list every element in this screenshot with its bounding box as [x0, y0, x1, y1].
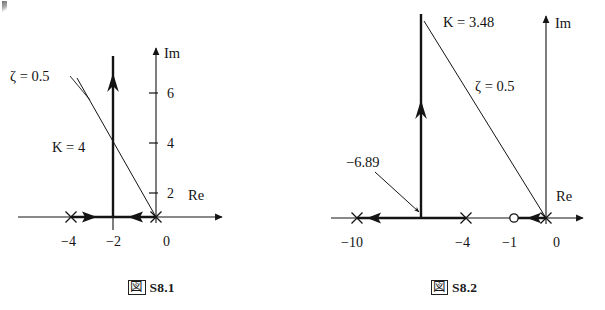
x-tick-label-0: 0 [163, 234, 170, 249]
figure-s8-1: Re Im 6 4 2 −4 −2 0 ζ = 0.5 K = 4 図S8.1 [0, 0, 303, 310]
zero-marker-o [510, 214, 518, 222]
real-axis-locus-segment-left-s8-2 [357, 213, 466, 224]
x-tick-label-minus4: −4 [61, 234, 76, 249]
axis-label-re: Re [188, 187, 204, 203]
x-tick-label-minus1: −1 [502, 235, 517, 250]
y-tick-label-4: 4 [167, 136, 174, 151]
axis-label-im: Im [555, 15, 572, 31]
figure-caption-s8-2: 図S8.2 [303, 280, 605, 296]
x-tick-label-minus10: −10 [341, 235, 363, 250]
damping-ratio-label: ζ = 0.5 [475, 78, 515, 94]
zeta-leader-line-s8-1 [70, 76, 90, 100]
x-tick-label-minus2: −2 [106, 234, 121, 249]
breakaway-point-label: −6.89 [346, 154, 380, 170]
gain-label-k: K = 3.48 [443, 14, 494, 30]
damping-ratio-line-s8-2 [424, 21, 546, 218]
breakaway-leader-arrow-s8-2 [375, 172, 419, 212]
axis-label-im: Im [164, 45, 181, 61]
figure-kanji-mark: 図 [431, 280, 448, 295]
figure-caption-s8-1: 図S8.1 [0, 280, 303, 296]
x-tick-label-0: 0 [553, 235, 560, 250]
figure-caption-label: S8.1 [150, 280, 175, 295]
figure-page: Re Im 6 4 2 −4 −2 0 ζ = 0.5 K = 4 図S8.1 [0, 0, 605, 310]
y-tick-label-2: 2 [167, 186, 174, 201]
y-tick-label-6: 6 [167, 86, 174, 101]
x-tick-label-minus4: −4 [455, 235, 470, 250]
damping-ratio-label: ζ = 0.5 [10, 68, 50, 84]
vertical-branch-s8-1 [107, 56, 119, 217]
figure-caption-label: S8.2 [452, 280, 477, 295]
root-locus-plot-s8-1: Re Im 6 4 2 −4 −2 0 ζ = 0.5 K = 4 [0, 0, 303, 275]
axis-label-re: Re [556, 188, 572, 204]
vertical-branch-s8-2 [415, 14, 427, 218]
imaginary-axis-s8-1 [149, 48, 158, 223]
figure-s8-2: Re Im −10 −4 −1 0 K = 3.48 ζ = 0.5 −6.89… [303, 0, 605, 310]
gain-label-k: K = 4 [52, 139, 86, 155]
root-locus-plot-s8-2: Re Im −10 −4 −1 0 K = 3.48 ζ = 0.5 −6.89 [303, 0, 605, 275]
figure-kanji-mark: 図 [128, 280, 145, 295]
